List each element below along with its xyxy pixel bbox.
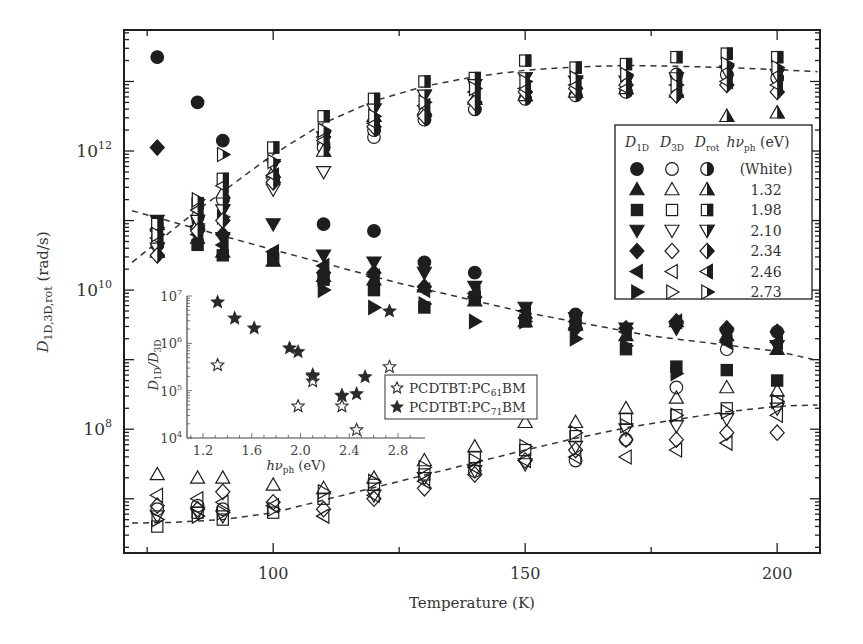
- inset-x-tick-label: 1.2: [193, 443, 214, 458]
- inset-x-tick-label: 1.6: [241, 443, 262, 458]
- data-point: [150, 140, 164, 155]
- data-point: [266, 219, 280, 231]
- data-point: [317, 167, 331, 179]
- data-point: [266, 478, 280, 490]
- inset-legend-label-main: PCDTBT:PC: [409, 380, 491, 396]
- y-axis-label: D1D,3D,rot (rad/s): [34, 231, 55, 353]
- inset-y-tick-label: 106: [160, 335, 182, 351]
- data-point: [317, 218, 330, 231]
- inset-data-point: [359, 370, 371, 382]
- inset-data-point: [336, 389, 348, 401]
- y-tick-label: 1012: [76, 139, 112, 161]
- data-point-shape: [771, 326, 784, 339]
- inset-x-tick-label: 2.4: [339, 443, 360, 458]
- main-legend: D1DD3DDrothνph (eV)(White)1.321.982.102.…: [615, 125, 812, 300]
- inset-data-point: [229, 312, 241, 324]
- y-tick-label: 1010: [76, 278, 112, 300]
- inset-data-point: [350, 388, 362, 400]
- data-point: [520, 55, 531, 66]
- data-point: [720, 343, 733, 356]
- legend-marker-3d-shape: [666, 163, 679, 176]
- legend-label: 2.73: [750, 284, 781, 300]
- legend-marker-3d-shape: [666, 204, 677, 215]
- data-point-shape: [266, 219, 280, 231]
- data-point-shape: [191, 96, 204, 109]
- inset-x-label-unit: (eV): [294, 458, 325, 473]
- x-tick-label: 100: [258, 564, 289, 583]
- data-point-shape: [368, 225, 381, 238]
- inset-y-tick-label: 104: [160, 430, 182, 446]
- inset-legend-label: PCDTBT:PC61BM: [409, 380, 526, 398]
- data-point-shape: [317, 167, 331, 179]
- y-tick-label-exp: 8: [105, 417, 112, 430]
- data-point: [318, 111, 329, 122]
- series-d-1d-2-73: [152, 210, 683, 380]
- inset-data-point: [383, 361, 395, 373]
- y-axis-label-unit: (rad/s): [34, 231, 52, 286]
- data-point: [720, 109, 734, 121]
- legend-marker-3d: [666, 163, 679, 176]
- data-point: [669, 391, 683, 403]
- x-axis-label: Temperature (K): [409, 594, 535, 612]
- y-tick-label-exp: 12: [98, 139, 112, 152]
- legend-header-sub: 1D: [636, 143, 649, 153]
- inset-x-tick-label: 2.8: [388, 443, 409, 458]
- inset-y-label-b: /D: [146, 352, 161, 369]
- data-point: [419, 76, 430, 87]
- inset-series-pcdtbt-pc71bm: [211, 296, 395, 401]
- data-point: [191, 471, 205, 483]
- data-point: [218, 147, 230, 161]
- inset-legend-label-main: PCDTBT:PC: [409, 399, 491, 415]
- legend-header-sub: rot: [706, 143, 720, 153]
- legend-header-unit: (eV): [756, 134, 790, 150]
- data-point-shape: [720, 343, 733, 356]
- legend-label: (White): [740, 161, 793, 177]
- data-point-shape: [721, 364, 732, 375]
- inset-data-point: [211, 296, 223, 308]
- legend-header-sub: ph: [744, 143, 756, 153]
- inset-series-pcdtbt-pc61bm: [211, 359, 395, 436]
- inset-x-axis-label: hνph (eV): [266, 458, 325, 475]
- y-tick-label-exp: 10: [98, 278, 112, 291]
- y-axis-label-main: D: [34, 341, 52, 354]
- inset-data-point: [292, 400, 304, 412]
- data-point: [671, 52, 682, 63]
- data-point-shape: [669, 391, 683, 403]
- data-point-shape: [619, 432, 633, 447]
- inset-legend-label-sub: 71: [491, 407, 502, 417]
- legend-marker-rot: [701, 204, 712, 215]
- inset-data-point: [248, 322, 260, 334]
- data-point-shape: [151, 51, 164, 64]
- inset-y-tick-base: 10: [160, 431, 177, 446]
- y-axis-label-sub: 1D,3D,rot: [42, 286, 55, 341]
- inset-y-axis-label: D1D/D3D: [146, 339, 163, 391]
- inset-plot: 1071061051041.21.62.02.42.8PCDTBT:PC61BM…: [160, 288, 537, 458]
- data-point-shape: [216, 134, 229, 147]
- legend-label: 2.10: [750, 223, 781, 239]
- y-tick-label-base: 10: [76, 280, 98, 300]
- legend-marker-1d-shape: [631, 204, 642, 215]
- legend-label: 1.98: [750, 202, 781, 218]
- inset-y-label-bsub: 3D: [153, 339, 163, 352]
- chart: 10810101012100150200 1071061051041.21.62…: [0, 0, 863, 644]
- inset-y-tick-exp: 4: [177, 430, 182, 439]
- data-point-shape: [191, 471, 205, 483]
- data-point: [468, 266, 481, 279]
- data-point: [191, 96, 204, 109]
- legend-label: 2.34: [750, 243, 781, 259]
- data-point-shape: [150, 467, 164, 479]
- data-point: [619, 401, 633, 413]
- legend-header-sub: 3D: [671, 143, 684, 153]
- data-point-shape: [770, 425, 784, 440]
- data-point: [369, 300, 381, 314]
- data-point-shape: [418, 256, 431, 269]
- data-point: [216, 134, 229, 147]
- legend-marker-3d: [666, 204, 677, 215]
- data-point-shape: [266, 478, 280, 490]
- data-point-shape: [369, 300, 381, 314]
- legend-header-main: D: [694, 134, 706, 150]
- inset-x-label-sub: ph: [283, 465, 295, 475]
- legend-header-main: D: [659, 134, 671, 150]
- inset-x-tick-label: 2.0: [290, 443, 311, 458]
- data-point: [150, 248, 164, 263]
